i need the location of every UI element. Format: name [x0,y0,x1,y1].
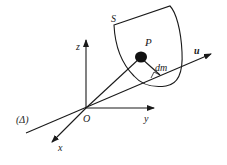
position-vector-op [86,58,140,108]
rigid-body-diagram: S P dm z y x O (Δ) u [0,0,227,165]
origin-label: O [83,113,90,124]
mass-point-dot [135,52,147,63]
x-axis-label: x [57,142,63,153]
point-label: P [144,36,152,48]
direction-u-label: u [194,45,200,56]
y-axis-label: y [143,113,149,124]
delta-axis-line [26,54,211,133]
z-axis-label: z [75,41,80,52]
x-axis [52,108,86,142]
mass-element-label: dm [155,62,167,73]
delta-axis-label: (Δ) [16,114,29,126]
surface-label: S [111,13,116,24]
